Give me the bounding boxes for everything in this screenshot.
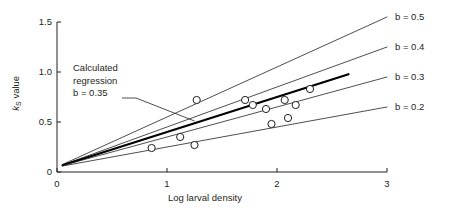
data-point-11 <box>306 85 313 92</box>
x-axis-label: Log larval density <box>168 192 242 204</box>
series-label-b-0.5: b = 0.5 <box>395 11 424 23</box>
data-point-3 <box>193 96 200 103</box>
x-tick-label-1: 1 <box>157 178 177 190</box>
data-point-10 <box>292 101 299 108</box>
data-point-6 <box>262 105 269 112</box>
series-label-b-0.4: b = 0.4 <box>395 41 424 53</box>
data-point-7 <box>268 120 275 127</box>
regression-line-b0.2 <box>63 107 388 166</box>
chart-figure: kS value Log larval density Calculated r… <box>0 0 452 213</box>
annotation-line-1: Calculated <box>73 62 118 75</box>
y-tick-label-2: 1.0 <box>28 66 52 78</box>
x-tick-label-3: 3 <box>377 178 397 190</box>
data-point-4 <box>242 96 249 103</box>
y-axis-label-symbol: k <box>10 106 21 111</box>
x-tick-label-2: 2 <box>267 178 287 190</box>
y-axis-label-rest: value <box>10 76 21 101</box>
series-label-b-0.3: b = 0.3 <box>395 71 424 83</box>
data-point-5 <box>249 101 256 108</box>
y-axis-label-subscript: S <box>15 101 22 106</box>
data-point-8 <box>281 96 288 103</box>
annotation-line-2: regression <box>73 75 118 88</box>
series-label-b-0.2: b = 0.2 <box>395 101 424 113</box>
data-point-0 <box>148 144 155 151</box>
annotation-line-3: b = 0.35 <box>73 87 118 100</box>
y-axis-label: kS value <box>10 63 25 123</box>
data-point-group <box>148 85 314 151</box>
data-point-2 <box>191 141 198 148</box>
data-point-1 <box>177 133 184 140</box>
regression-annotation: Calculated regression b = 0.35 <box>73 62 118 100</box>
y-tick-label-3: 1.5 <box>28 16 52 28</box>
data-point-9 <box>284 114 291 121</box>
x-tick-label-0: 0 <box>47 178 67 190</box>
y-tick-label-0: 0 <box>28 166 52 178</box>
y-tick-label-1: 0.5 <box>28 116 52 128</box>
